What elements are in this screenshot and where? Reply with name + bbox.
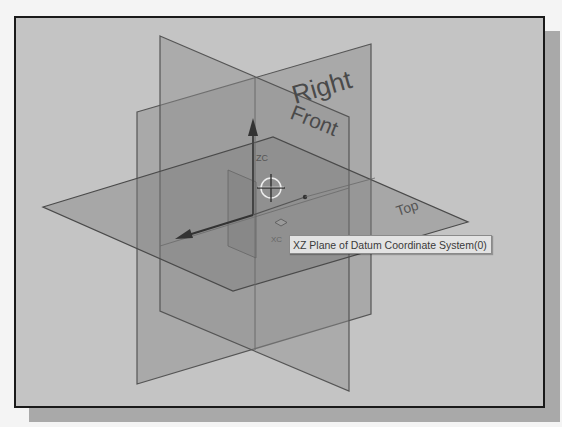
zc-axis-label: ZC xyxy=(256,153,268,163)
graphics-viewport[interactable]: ZC XC Right Front Top XZ Plane of Datum … xyxy=(14,16,545,408)
xc-axis-label: XC xyxy=(271,235,282,244)
datum-planes-scene[interactable]: ZC XC Right Front Top xyxy=(14,16,545,408)
selection-tooltip: XZ Plane of Datum Coordinate System(0) xyxy=(289,235,492,254)
tooltip-text: XZ Plane of Datum Coordinate System(0) xyxy=(293,239,487,251)
plane-icon xyxy=(274,218,288,227)
csys-small-plane xyxy=(228,170,256,258)
